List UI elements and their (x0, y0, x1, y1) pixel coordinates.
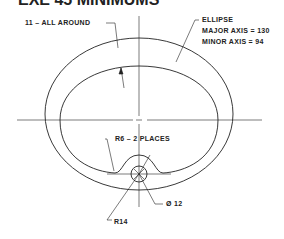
notch-radius-label: R14 (114, 218, 128, 225)
drawing-title: EXE 45 MINIMUMS (18, 0, 160, 8)
wall-thickness-label: 11 – ALL AROUND (25, 19, 90, 26)
ellipse-label: ELLIPSE (202, 16, 233, 23)
minor-axis-label: MINOR AXIS = 94 (202, 38, 264, 45)
ellipse-part-drawing: EXE 45 MINIMUMS 11 – ALL AROUND ELL (0, 0, 284, 239)
major-axis-label: MAJOR AXIS = 130 (202, 27, 270, 34)
fillet-label: R6 – 2 PLACES (115, 135, 170, 142)
hole-diameter-label: Ø 12 (166, 200, 182, 207)
